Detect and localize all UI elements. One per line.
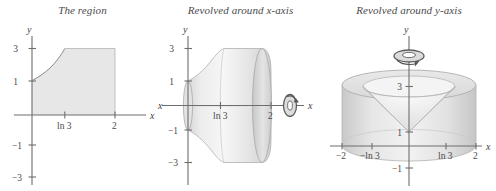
figure-solids-of-revolution: The region xyxy=(0,0,496,191)
panel-revolved-around-y-axis: Revolved around y-axis xyxy=(322,0,496,191)
panel-the-region: The region xyxy=(0,0,165,191)
x-tick-label-2: 2 xyxy=(473,151,478,161)
x-axis-label: x xyxy=(485,141,491,152)
region-shaded-area xyxy=(32,49,115,116)
y-tick-label-minus1: −1 xyxy=(168,126,178,136)
x-tick-label-ln3: ln 3 xyxy=(213,111,228,121)
panel-revolved-around-x-axis: Revolved around x-axis xyxy=(158,0,323,191)
x-tick-label-2: 2 xyxy=(268,111,273,121)
y-tick-label-minus1: −1 xyxy=(12,141,22,151)
panel-title-revolved-y: Revolved around y-axis xyxy=(322,4,496,16)
y-tick-label-1: 1 xyxy=(13,77,18,87)
y-axis-label: y xyxy=(182,24,188,35)
x-tick-label-ln3: ln 3 xyxy=(57,121,72,131)
y-tick-label-3: 3 xyxy=(13,44,18,54)
rotation-arrow-icon xyxy=(394,50,424,67)
x-axis-label: x xyxy=(149,110,155,121)
y-tick-label-3: 3 xyxy=(397,82,402,92)
y-tick-label-minus3: −3 xyxy=(168,158,178,168)
plot-the-region: ln 3 2 3 1 −1 −3 x y xyxy=(0,20,165,191)
x-tick-label-minus2: −2 xyxy=(336,151,346,161)
y-tick-label-1: 1 xyxy=(169,77,174,87)
y-tick-label-1: 1 xyxy=(397,128,402,138)
panel-title-revolved-x: Revolved around x-axis xyxy=(158,4,323,16)
panel-title-the-region: The region xyxy=(0,4,165,16)
plot-revolved-x: ln 3 2 3 1 −1 −3 x x y xyxy=(158,20,323,191)
x-axis-label-left: x xyxy=(157,100,163,111)
y-tick-label-3: 3 xyxy=(169,44,174,54)
x-axis-label: x xyxy=(307,100,313,111)
y-tick-label-minus3: −3 xyxy=(12,173,22,183)
y-axis-label: y xyxy=(26,24,32,35)
x-tick-label-ln3: ln 3 xyxy=(438,151,453,161)
x-tick-label-2: 2 xyxy=(112,121,117,131)
y-tick-label-minus1: −1 xyxy=(392,164,402,174)
plot-revolved-y: −2 −ln 3 ln 3 2 3 1 −1 x y xyxy=(322,20,496,191)
rotation-arrow-icon xyxy=(284,95,300,117)
x-tick-label-minus-ln3: −ln 3 xyxy=(360,151,380,161)
y-axis-label: y xyxy=(403,24,409,35)
